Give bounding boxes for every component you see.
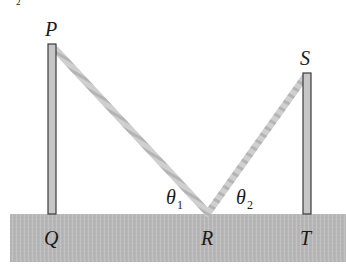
- cropped-subscript-fragment: 2: [16, 0, 21, 7]
- label-p: P: [44, 18, 57, 40]
- svg-text:θ: θ: [236, 186, 246, 208]
- angle-theta1: θ 1: [166, 186, 183, 212]
- angle-theta2: θ 2: [236, 186, 253, 212]
- label-q: Q: [44, 227, 59, 249]
- rope-sr: [208, 78, 304, 213]
- ground: [10, 214, 346, 262]
- svg-text:1: 1: [177, 198, 183, 212]
- pole-st: [303, 73, 311, 214]
- rope-poles-diagram: 2 P S Q R T θ 1 θ 2: [0, 0, 346, 268]
- svg-text:θ: θ: [166, 186, 176, 208]
- svg-text:2: 2: [247, 198, 253, 212]
- label-t: T: [300, 227, 313, 249]
- label-r: R: [200, 227, 213, 249]
- rope-pr: [56, 50, 208, 213]
- label-s: S: [300, 47, 310, 69]
- pole-pq: [48, 44, 56, 214]
